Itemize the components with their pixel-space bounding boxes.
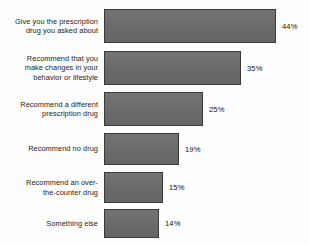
bar-track-3: 19% [104,133,309,165]
value-label-3: 19% [185,145,201,154]
category-label-2: Recommend a different prescription drug [0,100,104,119]
category-label-4: Recommend an over- the-counter drug [0,178,104,197]
bar-4 [104,172,163,203]
bar-track-5: 14% [104,209,309,238]
bar-track-2: 25% [104,92,309,126]
value-label-1: 35% [247,64,263,73]
bar-track-1: 35% [104,51,309,85]
bar-chart: Give you the prescription drug you asked… [0,0,309,244]
category-label-0: Give you the prescription drug you asked… [0,17,104,36]
chart-row-2: Recommend a different prescription drug … [0,92,309,126]
bar-3 [104,133,179,165]
bar-2 [104,92,203,126]
bar-track-0: 44% [104,9,309,43]
bar-0 [104,9,276,43]
chart-row-0: Give you the prescription drug you asked… [0,9,309,43]
category-label-5: Something else [0,219,104,228]
chart-row-4: Recommend an over- the-counter drug 15% [0,172,309,203]
chart-row-3: Recommend no drug 19% [0,133,309,165]
value-label-5: 14% [165,219,181,228]
bar-track-4: 15% [104,172,309,203]
value-label-2: 25% [209,105,225,114]
chart-row-1: Recommend that you make changes in your … [0,51,309,85]
value-label-0: 44% [282,22,298,31]
value-label-4: 15% [169,183,185,192]
chart-row-5: Something else 14% [0,209,309,238]
category-label-3: Recommend no drug [0,144,104,153]
category-label-1: Recommend that you make changes in your … [0,54,104,82]
bar-5 [104,209,159,238]
bar-1 [104,51,241,85]
